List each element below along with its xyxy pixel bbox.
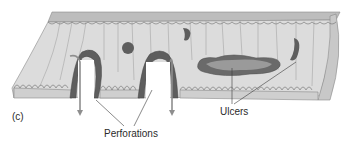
perforations-label: Perforations [104, 129, 158, 139]
panel-label: (c) [12, 112, 24, 122]
arrow-head-2 [169, 110, 175, 116]
ulcers-label: Ulcers [220, 107, 248, 117]
intestinal-wall-diagram [0, 0, 356, 149]
arrow-head-1 [77, 110, 83, 116]
small-lesion-1 [122, 42, 134, 54]
